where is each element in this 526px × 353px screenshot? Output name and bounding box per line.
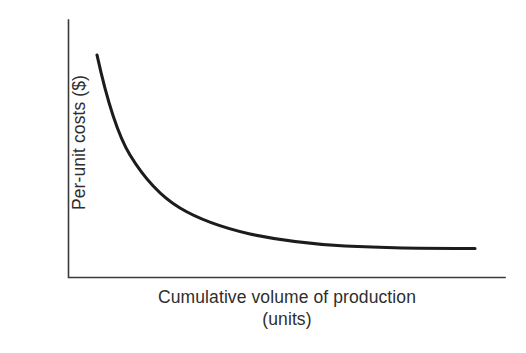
x-axis-label-units: (units) (68, 308, 506, 330)
x-axis-label-primary: Cumulative volume of production (68, 286, 506, 308)
experience-curve-line (97, 55, 475, 249)
x-axis-label-container: Cumulative volume of production (units) (68, 286, 506, 330)
experience-curve-figure: Per-unit costs ($) Cumulative volume of … (0, 0, 526, 353)
